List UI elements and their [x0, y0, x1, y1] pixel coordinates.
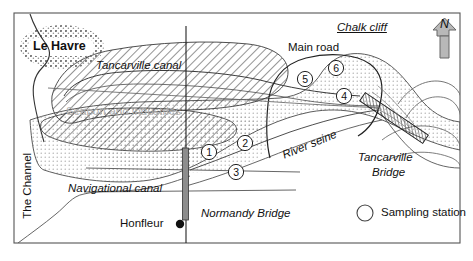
- label-the-channel: The Channel: [22, 153, 34, 219]
- label-le-havre: Le Havre: [33, 40, 86, 53]
- legend-sampling-station-icon: [357, 205, 373, 221]
- station-label-5: 5: [302, 74, 309, 85]
- station-label-4: 4: [341, 91, 348, 102]
- honfleur-dot: [176, 220, 184, 228]
- label-tancarville-bridge-line1: Tancarville: [358, 152, 413, 164]
- estuary-map: Le Havre Tancarville canal Seaport and i…: [0, 0, 473, 261]
- label-tancarville-bridge-line2: Bridge: [372, 167, 405, 179]
- label-honfleur: Honfleur: [120, 218, 163, 230]
- normandy-bridge-pylon: [183, 148, 189, 220]
- label-chalk-cliff: Chalk cliff: [337, 22, 387, 34]
- label-navigational-canal: Navigational canal: [68, 183, 162, 195]
- legend-sampling-station-label: Sampling station: [381, 207, 466, 219]
- station-label-6: 6: [333, 63, 340, 74]
- station-label-3: 3: [233, 167, 240, 178]
- label-seaport-and-industries: Seaport and industries: [66, 106, 181, 118]
- label-normandy-bridge: Normandy Bridge: [201, 208, 290, 220]
- label-main-road: Main road: [288, 42, 339, 54]
- station-label-2: 2: [242, 138, 249, 149]
- label-north: N: [440, 18, 449, 31]
- label-tancarville-canal: Tancarville canal: [96, 60, 181, 72]
- station-label-1: 1: [206, 147, 213, 158]
